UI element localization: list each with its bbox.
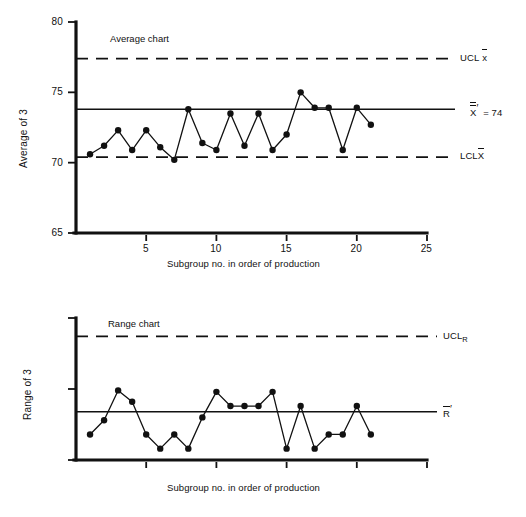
average-chart-center-label: X′ = 74	[470, 103, 502, 118]
center-value-text: = 74	[483, 107, 502, 118]
data-point	[368, 431, 374, 437]
prime-mark: ′	[450, 404, 452, 415]
data-point	[213, 147, 219, 153]
x-tick-label: 5	[143, 243, 149, 254]
data-point	[269, 389, 275, 395]
range-chart-x-axis-title: Subgroup no. in order of production	[167, 482, 320, 493]
range-chart-center-label: R′	[443, 404, 452, 419]
data-point	[115, 387, 121, 393]
center-symbol-rbar: R	[443, 408, 450, 419]
data-point	[185, 445, 191, 451]
data-point	[340, 431, 346, 437]
data-point	[283, 131, 289, 137]
data-point	[185, 106, 191, 112]
data-point	[297, 403, 303, 409]
y-tick-label: 75	[52, 86, 63, 97]
x-tick-label: 25	[421, 243, 432, 254]
range-chart-y-axis-title: Range of 3	[22, 369, 33, 420]
data-point	[143, 127, 149, 133]
x-tick-label: 20	[351, 243, 362, 254]
data-point	[143, 431, 149, 437]
data-point	[115, 127, 121, 133]
data-point	[311, 445, 317, 451]
lcl-subject-symbol: X	[478, 150, 484, 161]
data-point	[199, 414, 205, 420]
data-point	[101, 417, 107, 423]
center-symbol-xbarbar: X	[470, 107, 476, 118]
data-point	[241, 143, 247, 149]
range-chart-inner-title: Range chart	[108, 318, 160, 329]
data-point	[129, 147, 135, 153]
data-point	[311, 105, 317, 111]
prime-mark: ′	[476, 103, 478, 114]
data-point	[354, 403, 360, 409]
data-point	[171, 431, 177, 437]
ucl-text: UCL	[460, 52, 479, 63]
data-point	[354, 105, 360, 111]
range-chart-panel: Range of 3 Range chart UCLR R′ Subgroup …	[0, 290, 526, 517]
data-point	[269, 147, 275, 153]
data-point	[129, 399, 135, 405]
y-tick-label: 70	[52, 157, 63, 168]
average-chart-plot	[0, 0, 526, 285]
data-point	[87, 431, 93, 437]
range-chart-ucl-label: UCLR	[443, 330, 468, 343]
data-point	[87, 151, 93, 157]
data-point	[157, 445, 163, 451]
average-chart-lcl-label: LCLX	[460, 150, 484, 161]
data-point	[227, 403, 233, 409]
data-point	[326, 105, 332, 111]
data-point	[227, 110, 233, 116]
average-chart-panel: Average of 3 Average chart UCLx X′ = 74 …	[0, 0, 526, 285]
data-point	[171, 157, 177, 163]
data-point	[199, 140, 205, 146]
data-point	[340, 147, 346, 153]
data-point	[283, 445, 289, 451]
x-tick-label: 10	[210, 243, 221, 254]
average-chart-y-axis-title: Average of 3	[18, 109, 29, 168]
x-tick-label: 15	[280, 243, 291, 254]
lcl-text: LCL	[460, 150, 478, 161]
average-chart-inner-title: Average chart	[110, 33, 169, 44]
y-tick-label: 65	[52, 227, 63, 238]
data-point	[297, 89, 303, 95]
data-point	[326, 431, 332, 437]
data-point	[157, 144, 163, 150]
data-point	[255, 110, 261, 116]
ucl-text: UCL	[443, 330, 462, 341]
data-point	[101, 143, 107, 149]
data-point	[241, 403, 247, 409]
average-chart-x-axis-title: Subgroup no. in order of production	[167, 258, 320, 269]
ucl-subject-symbol: x	[482, 52, 487, 63]
y-tick-label: 80	[52, 16, 63, 27]
average-chart-ucl-label: UCLx	[460, 52, 487, 63]
data-point	[213, 389, 219, 395]
data-point	[255, 403, 261, 409]
data-point	[368, 121, 374, 127]
ucl-subscript-r: R	[462, 335, 468, 344]
